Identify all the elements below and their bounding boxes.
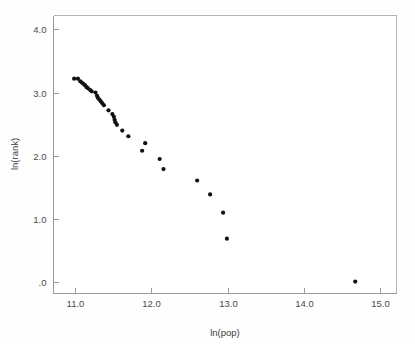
y-tick-label: 4.0	[33, 24, 46, 35]
plot-area-background	[54, 16, 397, 294]
data-point	[208, 192, 212, 196]
data-point	[126, 134, 130, 138]
data-point	[353, 280, 357, 284]
data-point	[90, 89, 94, 93]
data-point	[120, 128, 124, 132]
data-point	[161, 167, 165, 171]
data-point	[115, 123, 119, 127]
x-tick-label: 15.0	[371, 298, 390, 309]
data-point	[106, 108, 110, 112]
y-tick-label: .0	[39, 277, 47, 288]
data-point	[143, 141, 147, 145]
data-point	[225, 237, 229, 241]
x-tick-label: 14.0	[295, 298, 314, 309]
data-point	[158, 157, 162, 161]
y-tick-label: 2.0	[33, 151, 46, 162]
x-axis-label: ln(pop)	[210, 327, 240, 338]
data-point	[102, 103, 106, 107]
data-point	[72, 77, 76, 81]
y-tick-label: 3.0	[33, 88, 46, 99]
y-axis-label: ln(rank)	[9, 138, 20, 170]
scatter-plot-canvas: 11.012.013.014.015.0 .01.02.03.04.0 ln(p…	[0, 0, 415, 344]
x-tick-label: 13.0	[219, 298, 238, 309]
data-point	[221, 211, 225, 215]
chart-figure: 11.012.013.014.015.0 .01.02.03.04.0 ln(p…	[0, 0, 415, 344]
data-point	[195, 178, 199, 182]
y-tick-label: 1.0	[33, 214, 46, 225]
x-tick-label: 11.0	[67, 298, 85, 309]
data-point	[140, 149, 144, 153]
x-tick-label: 12.0	[142, 298, 161, 309]
